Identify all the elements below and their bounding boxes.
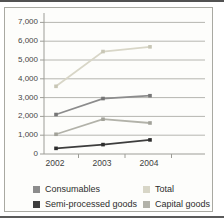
x-axis-label: 2002 — [46, 158, 65, 168]
top-border-rule — [0, 0, 224, 2]
legend-item-consumables: Consumables — [33, 183, 143, 195]
data-point-consumables — [148, 94, 152, 98]
data-point-semi-processed-goods — [54, 147, 58, 151]
legend-label: Semi-processed goods — [45, 198, 137, 210]
legend-label: Total — [155, 183, 174, 195]
y-axis-label: 0 — [34, 149, 39, 158]
data-point-total — [54, 85, 58, 89]
series-line-capital-goods — [56, 119, 150, 134]
legend-item-capital-goods: Capital goods — [143, 198, 210, 210]
x-axis-label: 2004 — [140, 158, 159, 168]
y-axis-label: 1,000 — [18, 130, 39, 139]
legend-swatch-semi-processed-goods — [33, 201, 40, 208]
y-axis-label: 7,000 — [18, 17, 39, 26]
legend-swatch-capital-goods — [143, 201, 150, 208]
data-point-semi-processed-goods — [148, 138, 152, 142]
y-axis-label: 6,000 — [18, 36, 39, 45]
y-axis-label: 4,000 — [18, 74, 39, 83]
data-point-capital-goods — [148, 121, 152, 125]
data-point-consumables — [101, 97, 105, 101]
line-chart: 01,0002,0003,0004,0005,0006,0007,0002002… — [5, 8, 213, 178]
chart-frame: 01,0002,0003,0004,0005,0006,0007,0002002… — [4, 7, 213, 212]
y-axis-label: 5,000 — [18, 55, 39, 64]
y-axis-label: 3,000 — [18, 93, 39, 102]
data-point-capital-goods — [54, 132, 58, 136]
data-point-total — [101, 50, 105, 54]
legend-swatch-total — [143, 186, 150, 193]
y-axis-label: 2,000 — [18, 111, 39, 120]
legend-swatch-consumables — [33, 186, 40, 193]
scanned-chart-figure: 01,0002,0003,0004,0005,0006,0007,0002002… — [0, 0, 224, 221]
legend-item-total: Total — [143, 183, 210, 195]
bottom-border-rule — [0, 216, 224, 218]
x-axis-label: 2003 — [93, 158, 112, 168]
legend-item-semi-processed-goods: Semi-processed goods — [33, 198, 143, 210]
chart-legend: ConsumablesTotalSemi-processed goodsCapi… — [33, 183, 210, 210]
data-point-capital-goods — [101, 117, 105, 121]
legend-label: Consumables — [45, 183, 100, 195]
data-point-consumables — [54, 113, 58, 117]
legend-label: Capital goods — [155, 198, 210, 210]
data-point-total — [148, 45, 152, 49]
data-point-semi-processed-goods — [101, 143, 105, 147]
